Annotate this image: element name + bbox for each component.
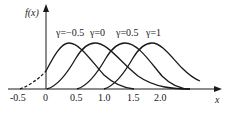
series-label-gamma-neg0.5: γ=−0.5 xyxy=(55,27,84,38)
y-axis-label: f(x) xyxy=(25,7,40,19)
series-gamma-neg0.5-dashed xyxy=(20,71,46,89)
x-tick-label: 2.0 xyxy=(154,92,167,103)
x-axis-arrow-icon xyxy=(214,86,222,92)
curves xyxy=(20,43,200,89)
series-label-gamma-0: γ=0 xyxy=(89,27,105,38)
series-label-gamma-0.5: γ=0.5 xyxy=(115,27,139,38)
x-tick-labels: -0.5 0 0.5 1.0 1.5 2.0 xyxy=(10,92,167,103)
x-tick-label: -0.5 xyxy=(10,92,26,103)
series-gamma-1 xyxy=(104,43,200,89)
series-labels: γ=−0.5 γ=0 γ=0.5 γ=1 xyxy=(55,27,161,38)
series-label-gamma-1: γ=1 xyxy=(145,27,161,38)
y-axis-arrow-icon xyxy=(43,4,49,12)
x-tick-label: 0.5 xyxy=(70,92,83,103)
x-tick-label: 0 xyxy=(43,92,48,103)
y-axis xyxy=(43,4,49,89)
x-tick-label: 1.0 xyxy=(98,92,111,103)
x-axis-label: x xyxy=(214,94,220,105)
series-gamma-0.5 xyxy=(77,43,190,89)
x-tick-label: 1.5 xyxy=(127,92,140,103)
weibull-location-chart: f(x) x -0.5 0 0.5 1.0 1.5 2.0 γ=−0.5 γ=0… xyxy=(0,0,227,115)
